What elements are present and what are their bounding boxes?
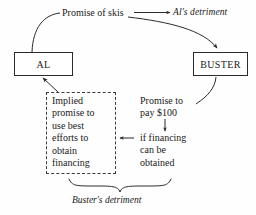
contract-consideration-diagram: AL BUSTER Promise of skis Al's detriment…: [0, 0, 256, 215]
node-al-label: AL: [36, 59, 50, 70]
diagram-vector-layer: [0, 0, 256, 215]
label-al-detriment: Al's detriment: [173, 6, 227, 19]
label-promise-of-skis: Promise of skis: [62, 6, 124, 19]
label-if-financing-condition: if financing can be obtained: [140, 132, 212, 169]
label-implied-promise: Implied promise to use best efforts to o…: [52, 95, 114, 169]
bottom-brace: [69, 179, 171, 192]
node-buster: BUSTER: [193, 52, 248, 76]
label-promise-to-pay: Promise to pay $100: [140, 95, 210, 120]
node-buster-label: BUSTER: [200, 59, 241, 70]
label-buster-detriment: Buster's detriment: [72, 194, 141, 207]
connector-skis-to-al: [32, 13, 60, 52]
node-al: AL: [14, 52, 73, 76]
connector-detriment-to-buster: [128, 17, 217, 48]
connector-implied-to-al: [43, 78, 58, 92]
